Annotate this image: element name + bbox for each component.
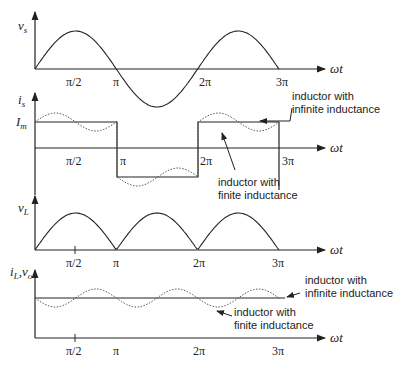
vl-rectified-curve <box>35 213 279 250</box>
panel-is: is Im ωt π/2 π 2π 3π inductor with infin… <box>15 90 380 201</box>
panel-vl: vL ωt π/2 π 2π 3π <box>18 196 343 270</box>
annotation-arrow <box>217 311 232 316</box>
tick-label: π <box>120 154 126 168</box>
tick-label: π/2 <box>66 344 81 358</box>
tick-label: 3π <box>272 344 284 358</box>
annotation-text: finite inductance <box>218 189 298 201</box>
tick-label: 3π <box>272 256 284 270</box>
im-label: Im <box>15 114 27 131</box>
rectifier-waveform-diagram: vs ωt π/2 π 2π 3π is Im ωt π/2 π 2π 3π i… <box>0 0 395 365</box>
annotation-arrow <box>222 133 235 170</box>
annotation-text: infinite inductance <box>292 103 380 115</box>
tick-label: 3π <box>276 75 288 89</box>
tick-label: 2π <box>199 75 211 89</box>
xlabel: ωt <box>330 330 343 345</box>
xlabel: ωt <box>330 61 343 76</box>
ylabel: vL <box>18 200 29 217</box>
annotation-text: finite inductance <box>234 319 314 331</box>
tick-label: π <box>113 344 119 358</box>
annotation-text: inductor with <box>218 176 280 188</box>
tick-label: 2π <box>193 344 205 358</box>
tick-label: π/2 <box>66 256 81 270</box>
annotation-arrow <box>287 293 300 297</box>
tick-label: π <box>113 75 119 89</box>
tick-label: 3π <box>282 154 294 168</box>
waveform-svg: vs ωt π/2 π 2π 3π is Im ωt π/2 π 2π 3π i… <box>0 0 395 365</box>
annotation-text: inductor with <box>305 274 367 286</box>
ylabel: is <box>18 92 26 109</box>
ylabel: vs <box>18 18 28 35</box>
annotation-text: infinite inductance <box>305 287 393 299</box>
xlabel: ωt <box>330 242 343 257</box>
panel-il-vo: iL,vo ωt π/2 π 2π 3π inductor with infin… <box>10 264 393 358</box>
ylabel: iL,vo <box>10 264 33 281</box>
tick-label: π/2 <box>66 154 81 168</box>
tick-label: π/2 <box>66 75 81 89</box>
tick-label: 2π <box>200 154 212 168</box>
tick-label: π <box>113 256 119 270</box>
xlabel: ωt <box>330 140 343 155</box>
annotation-text: inductor with <box>292 90 354 102</box>
annotation-text: inductor with <box>234 306 296 318</box>
tick-label: 2π <box>193 256 205 270</box>
